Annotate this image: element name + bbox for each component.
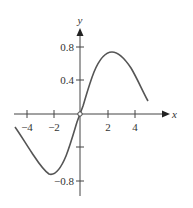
y-axis-arrow-icon	[77, 28, 84, 36]
x-tick-label: −2	[48, 121, 60, 133]
x-axis-arrow-icon	[162, 111, 170, 118]
x-tick-label: −4	[21, 121, 33, 133]
x-tick-label: 2	[105, 121, 111, 133]
x-axis	[14, 111, 170, 118]
y-tick-label: 0.4	[60, 74, 74, 86]
y-axis-label: y	[77, 14, 83, 26]
y-tick-label: −0.8	[54, 175, 74, 187]
origin-marker	[78, 112, 82, 116]
y-tick-label: 0.8	[60, 41, 74, 53]
x-tick-label: 4	[132, 121, 138, 133]
x-axis-label: x	[171, 108, 177, 120]
chart: −4 −2 2 4 0.8 0.4 −0.8 x y	[0, 0, 193, 208]
